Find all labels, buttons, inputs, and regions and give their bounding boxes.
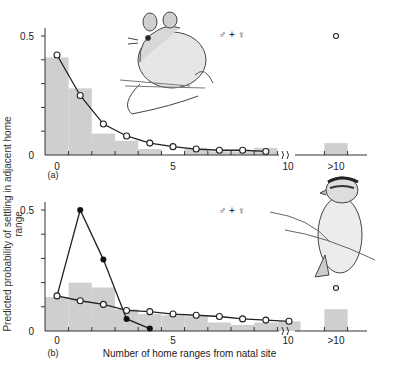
sex-annotation: ♂ + ♀ [219, 205, 245, 216]
histogram-bar [208, 323, 231, 331]
histogram-bar [324, 309, 347, 331]
y-tick-label: 0 [28, 150, 34, 161]
y-axis-label: Predicted probability of settling in adj… [2, 104, 24, 344]
open-circle-marker [100, 121, 106, 127]
x-tick-label: 0 [54, 335, 60, 346]
x-tick-label: >10 [328, 335, 345, 346]
open-circle-marker [54, 52, 60, 58]
open-circle-marker [216, 313, 222, 319]
histogram-bar [92, 134, 115, 155]
histogram-bar [69, 283, 92, 331]
figure: 0.500510>10(a)♂ + ♀ 0.500510>10(b)♂ + ♀ [0, 0, 399, 375]
x-tick-label: 10 [282, 161, 294, 172]
filled-circle-marker [147, 326, 153, 332]
open-circle-marker [77, 298, 83, 304]
open-circle-marker [193, 312, 199, 318]
panel-b: 0.500510>10(b)♂ + ♀ [20, 202, 367, 358]
open-circle-marker [100, 301, 106, 307]
open-circle-marker [147, 309, 153, 315]
open-circle-marker [240, 147, 246, 153]
filled-circle-marker [77, 207, 83, 213]
filled-circle-marker [124, 316, 130, 322]
bird-illustration [270, 177, 375, 277]
histogram-bar [92, 287, 115, 331]
sex-annotation: ♂ + ♀ [219, 29, 245, 40]
x-axis-label: Number of home ranges from natal site [0, 348, 399, 359]
open-circle-marker [193, 146, 199, 152]
open-circle-marker [124, 133, 130, 139]
x-tick-label: 10 [282, 335, 294, 346]
open-circle-marker [124, 307, 130, 313]
open-circle-marker [77, 93, 83, 99]
histogram-bar [161, 315, 184, 331]
open-circle-marker [170, 311, 176, 317]
gt10-open-circle-marker [334, 34, 339, 39]
histogram-bar [254, 323, 277, 331]
open-circle-marker [286, 318, 292, 324]
histogram-bar [138, 149, 161, 155]
open-circle-marker [54, 293, 60, 299]
x-tick-label: 5 [170, 335, 176, 346]
panel-label: (a) [48, 170, 59, 180]
open-circle-marker [263, 317, 269, 323]
open-circle-marker [240, 316, 246, 322]
open-circle-marker [170, 144, 176, 150]
filled-circle-marker [100, 257, 106, 263]
histogram-bar [45, 297, 69, 331]
open-circle-marker [147, 140, 153, 146]
histogram-bar [45, 57, 69, 155]
x-tick-label: 5 [170, 161, 176, 172]
y-tick-label: 0.5 [20, 31, 34, 42]
open-circle-marker [263, 148, 269, 154]
y-tick-label: 0 [28, 326, 34, 337]
histogram-bar [324, 143, 347, 155]
mouse-illustration [120, 12, 213, 114]
gt10-open-circle-marker [334, 286, 339, 291]
x-tick-label: >10 [328, 161, 345, 172]
histogram-bar [115, 141, 138, 155]
open-circle-marker [216, 147, 222, 153]
histogram-bar [231, 325, 254, 331]
axis-break-icon [282, 151, 289, 159]
